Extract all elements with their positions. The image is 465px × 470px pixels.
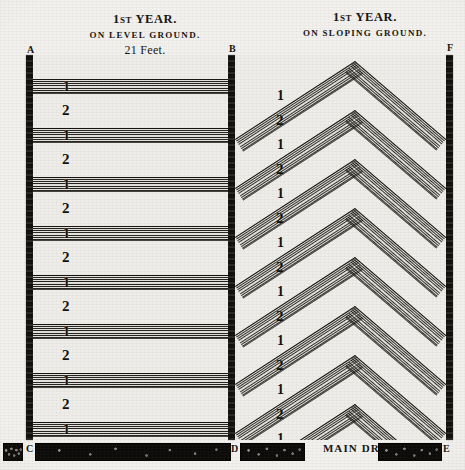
gap-label: 2 — [62, 348, 70, 363]
main-drain-segment — [35, 443, 231, 461]
chevron-arm-right — [345, 159, 446, 248]
left-panel-subtitle: ON LEVEL GROUND. — [60, 30, 230, 40]
chevron-arm-right — [345, 257, 446, 346]
right-title-suffix: ST — [340, 13, 352, 23]
corner-label-d: D — [231, 443, 238, 454]
drain-band-label: 1 — [277, 334, 284, 348]
left-title-ordinal: 1 — [113, 12, 120, 26]
drain-band-label: 1 — [63, 374, 70, 388]
right-panel-title: 1ST YEAR. — [270, 10, 460, 25]
chevron-arm-left — [235, 306, 363, 397]
corner-label-c: C — [26, 443, 33, 454]
engraving-plate: 1ST YEAR. ON LEVEL GROUND. 21 Feet. 1ST … — [0, 0, 465, 470]
chevron-arm-right — [345, 306, 446, 395]
gap-label: 2 — [276, 162, 284, 177]
corner-label-a: A — [27, 44, 35, 55]
boundary-post-middle — [228, 55, 235, 440]
main-drain: C D MAIN DRAIN. E — [0, 440, 465, 462]
chevron-arm-left — [235, 61, 363, 152]
left-title-word: YEAR. — [132, 12, 177, 26]
drain-band-label: 1 — [277, 138, 284, 152]
main-drain-segment — [3, 443, 23, 461]
chevron-arm-left — [235, 110, 363, 201]
drain-band-label: 1 — [63, 325, 70, 339]
gap-label: 2 — [276, 358, 284, 373]
left-panel-title: 1ST YEAR. — [60, 12, 230, 27]
left-title-suffix: ST — [120, 15, 132, 25]
corner-label-b: B — [229, 43, 236, 54]
right-title-word: YEAR. — [352, 10, 397, 24]
left-panel-heading: 1ST YEAR. ON LEVEL GROUND. 21 Feet. — [60, 12, 230, 58]
gap-label: 2 — [276, 211, 284, 226]
gap-label: 2 — [62, 299, 70, 314]
drain-band-label: 1 — [63, 276, 70, 290]
right-panel-heading: 1ST YEAR. ON SLOPING GROUND. — [270, 10, 460, 38]
gap-label: 2 — [62, 152, 70, 167]
drain-band-label: 1 — [63, 178, 70, 192]
gap-label: 2 — [62, 201, 70, 216]
corner-label-f: F — [447, 42, 454, 53]
chevron-arm-left — [235, 208, 363, 299]
drain-band-label: 1 — [277, 432, 284, 440]
chevron-arm-left — [235, 159, 363, 250]
drain-band-label: 1 — [277, 236, 284, 250]
drain-band-label: 1 — [277, 383, 284, 397]
drain-band-label: 1 — [277, 285, 284, 299]
chevron-arm-right — [345, 61, 446, 150]
gap-label: 2 — [62, 103, 70, 118]
right-title-ordinal: 1 — [333, 10, 340, 24]
gap-label: 2 — [276, 113, 284, 128]
gap-label: 2 — [276, 260, 284, 275]
field-sloping-ground: 121212121212121 — [235, 55, 446, 440]
gap-label: 2 — [62, 250, 70, 265]
gap-label: 2 — [276, 407, 284, 422]
gap-label: 2 — [62, 397, 70, 412]
field-level-ground: 121212121212121 — [33, 55, 228, 440]
main-drain-segment — [240, 443, 305, 461]
corner-label-e: E — [443, 443, 450, 454]
drain-band-label: 1 — [277, 89, 284, 103]
drain-band-label: 1 — [277, 187, 284, 201]
drain-band-label: 1 — [63, 129, 70, 143]
main-drain-segment — [378, 443, 442, 461]
chevron-arm-left — [235, 257, 363, 348]
drain-band-label: 1 — [63, 227, 70, 241]
drain-band-label: 1 — [63, 423, 70, 437]
chevron-arm-right — [345, 110, 446, 199]
drain-band-label: 1 — [63, 80, 70, 94]
chevron-arm-right — [345, 208, 446, 297]
boundary-post-left — [26, 55, 33, 440]
gap-label: 2 — [276, 309, 284, 324]
boundary-post-right — [446, 55, 453, 440]
right-panel-subtitle: ON SLOPING GROUND. — [270, 28, 460, 38]
